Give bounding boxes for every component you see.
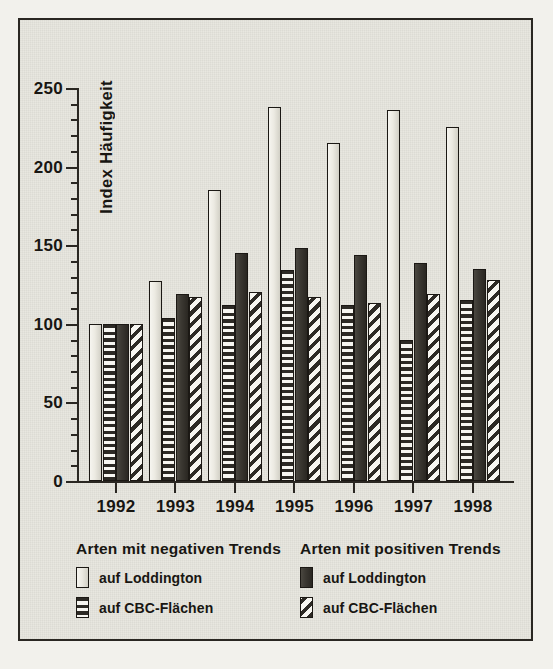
legend-swatch-icon: [76, 597, 89, 618]
legend-item[interactable]: auf Loddington: [300, 567, 501, 588]
y-axis-line: [77, 88, 79, 483]
bar: [89, 324, 102, 481]
legend-item[interactable]: auf CBC-Flächen: [300, 597, 501, 618]
legend-item[interactable]: auf CBC-Flächen: [76, 597, 281, 618]
legend-swatch-icon: [300, 597, 313, 618]
x-tick: [293, 483, 295, 493]
x-tick-label: 1992: [96, 497, 135, 517]
bar: [268, 107, 281, 481]
y-tick-major: [66, 245, 77, 247]
x-tick: [472, 483, 474, 493]
y-axis-title: Index Häufigkeit: [97, 80, 116, 214]
x-tick: [115, 483, 117, 493]
bar: [208, 190, 221, 481]
y-tick-major: [66, 167, 77, 169]
y-tick-label: 250: [34, 79, 63, 99]
y-tick-minor: [71, 104, 77, 106]
x-tick-label: 1993: [156, 497, 195, 517]
bar: [354, 255, 367, 481]
y-tick-label: 200: [34, 158, 63, 178]
y-tick-label: 150: [34, 236, 63, 256]
y-tick-minor: [71, 434, 77, 436]
bar: [387, 110, 400, 481]
y-tick-minor: [71, 340, 77, 342]
y-tick-major: [66, 481, 77, 483]
bar: [189, 297, 202, 481]
bar: [427, 294, 440, 481]
bar: [460, 300, 473, 481]
bar: [414, 263, 427, 482]
y-tick-minor: [71, 277, 77, 279]
bar: [295, 248, 308, 481]
bar: [400, 340, 413, 481]
y-tick-major: [66, 402, 77, 404]
figure: Index Häufigkeit 050100150200250 1992199…: [0, 0, 553, 669]
x-tick: [174, 483, 176, 493]
bar: [162, 318, 175, 481]
bar: [281, 270, 294, 481]
legend-title: Arten mit negativen Trends: [76, 540, 281, 558]
bar: [327, 143, 340, 481]
y-tick-minor: [71, 135, 77, 137]
y-tick-minor: [71, 387, 77, 389]
x-axis-line: [77, 481, 514, 483]
y-tick-label: 0: [53, 472, 63, 492]
x-tick-label: 1996: [334, 497, 373, 517]
legend-item-label: auf Loddington: [323, 570, 426, 586]
y-tick-minor: [71, 151, 77, 153]
y-tick-minor: [71, 450, 77, 452]
x-tick-label: 1998: [453, 497, 492, 517]
bar: [446, 127, 459, 481]
legend-item-label: auf CBC-Flächen: [99, 600, 213, 616]
bar: [149, 281, 162, 481]
x-tick-label: 1994: [215, 497, 254, 517]
y-tick-major: [66, 324, 77, 326]
y-tick-minor: [71, 371, 77, 373]
legend-item-label: auf Loddington: [99, 570, 202, 586]
y-tick-minor: [71, 214, 77, 216]
y-tick-minor: [71, 308, 77, 310]
x-tick: [234, 483, 236, 493]
legend-item-label: auf CBC-Flächen: [323, 600, 437, 616]
y-tick-minor: [71, 119, 77, 121]
y-tick-minor: [71, 465, 77, 467]
y-tick-minor: [71, 182, 77, 184]
legend-swatch-icon: [76, 567, 89, 588]
y-tick-minor: [71, 292, 77, 294]
y-tick-minor: [71, 355, 77, 357]
bar: [130, 324, 143, 481]
legend-title: Arten mit positiven Trends: [300, 540, 501, 558]
plot-area: Index Häufigkeit 050100150200250 1992199…: [77, 70, 517, 485]
bar: [176, 294, 189, 481]
legend-item[interactable]: auf Loddington: [76, 567, 281, 588]
y-tick-minor: [71, 418, 77, 420]
y-tick-minor: [71, 198, 77, 200]
x-tick-label: 1997: [394, 497, 433, 517]
bar: [487, 280, 500, 481]
y-tick-label: 50: [43, 393, 63, 413]
chart-frame: Index Häufigkeit 050100150200250 1992199…: [18, 18, 533, 641]
bar: [341, 305, 354, 481]
legend-column-negative: Arten mit negativen Trendsauf Loddington…: [76, 540, 281, 627]
y-tick-minor: [71, 229, 77, 231]
bar: [473, 269, 486, 481]
bar: [103, 324, 116, 481]
legend-swatch-icon: [300, 567, 313, 588]
bar: [249, 292, 262, 481]
x-tick: [412, 483, 414, 493]
bar: [235, 253, 248, 481]
bar: [222, 305, 235, 481]
y-tick-minor: [71, 261, 77, 263]
y-tick-label: 100: [34, 315, 63, 335]
x-tick: [353, 483, 355, 493]
bar: [116, 324, 129, 481]
bar: [368, 303, 381, 481]
x-tick-label: 1995: [275, 497, 314, 517]
legend-column-positive: Arten mit positiven Trendsauf Loddington…: [300, 540, 501, 627]
y-tick-major: [66, 88, 77, 90]
bar: [308, 297, 321, 481]
